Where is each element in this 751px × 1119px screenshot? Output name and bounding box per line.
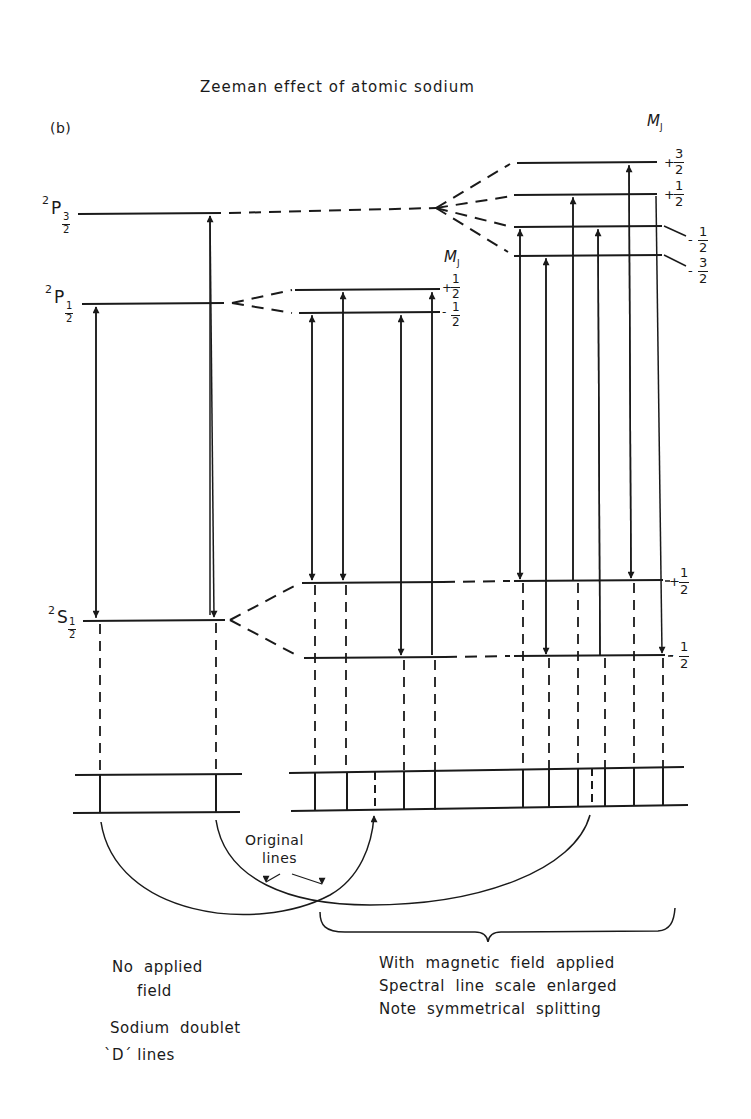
caption-left-line2: field: [137, 982, 172, 1000]
figure-title: Zeeman effect of atomic sodium: [200, 78, 475, 96]
caption-right-line1: With magnetic field applied: [379, 954, 615, 972]
caption-left-line4: `D´ lines: [104, 1046, 175, 1064]
caption-right-line3: Note symmetrical splitting: [379, 1000, 601, 1018]
brace: [320, 908, 675, 942]
caption-right-line2: Spectral line scale enlarged: [379, 977, 617, 995]
caption-left-line3: Sodium doublet: [110, 1019, 241, 1037]
panel-label: (b): [50, 120, 71, 136]
annotation-lines: lines: [262, 850, 297, 866]
level-2P3/2: [78, 213, 221, 214]
level-2P1/2: [82, 303, 224, 304]
energy-level-diagram: [0, 0, 751, 1119]
caption-left-line1: No applied: [112, 958, 203, 976]
annotation-original: Original: [245, 832, 304, 848]
level-2S1/2: [83, 620, 225, 621]
